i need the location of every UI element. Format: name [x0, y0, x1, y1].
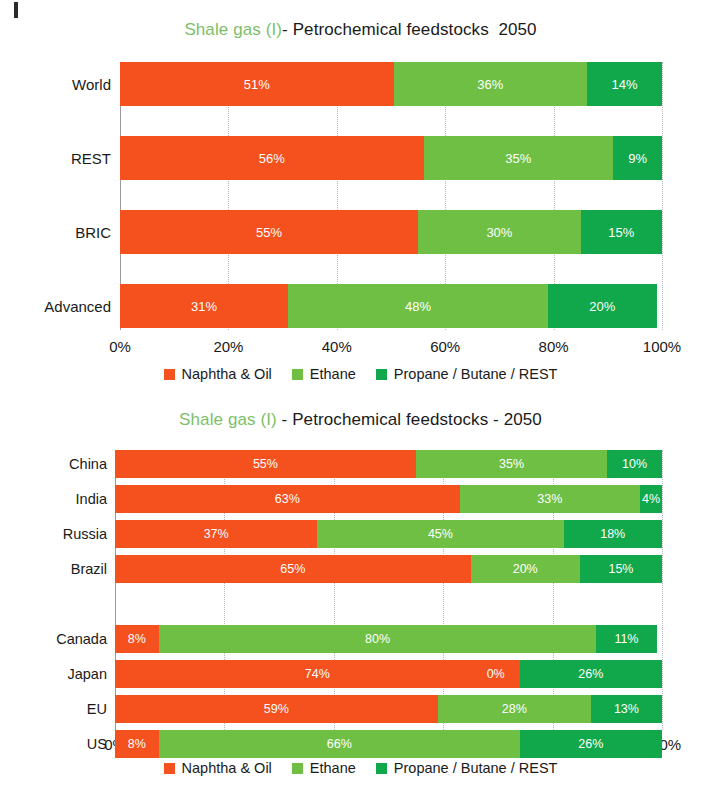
category-label: Japan: [67, 660, 115, 688]
bar-row: India63%33%4%: [115, 485, 662, 513]
bar-value-label: 18%: [600, 527, 625, 541]
bar-value-label: 13%: [614, 702, 639, 716]
bar-segment: 55%: [120, 210, 418, 254]
legend-item[interactable]: Propane / Butane / REST: [376, 760, 558, 776]
bar-segment: 37%: [115, 520, 317, 548]
chart-bottom-plot-area: China55%35%10%India63%33%4%Russia37%45%1…: [115, 450, 662, 730]
scan-artifact-mark: [14, 2, 18, 18]
bar-segment: 15%: [580, 555, 662, 583]
bar-row: US8%66%26%: [115, 730, 662, 758]
x-axis-tick-label: 80%: [539, 338, 569, 355]
bar-segment: 74%: [115, 660, 520, 688]
bar-value-label: 65%: [280, 562, 305, 576]
legend-item-label: Ethane: [310, 760, 356, 776]
bar-value-label: 33%: [537, 492, 562, 506]
gridline: [662, 62, 664, 330]
bar-row: World51%36%14%: [120, 62, 662, 106]
bar-value-label: 74%: [305, 667, 330, 681]
bar-row-spacer: [115, 590, 662, 618]
bar-value-label: 80%: [365, 632, 390, 646]
bar-row: EU59%28%13%: [115, 695, 662, 723]
legend-item-label: Naphtha & Oil: [182, 760, 272, 776]
bar-segment: 56%: [120, 136, 424, 180]
legend-item[interactable]: Propane / Butane / REST: [376, 366, 558, 382]
bar-value-label: 26%: [578, 667, 603, 681]
legend-item-label: Naphtha & Oil: [182, 366, 272, 382]
bar-segment: 18%: [564, 520, 662, 548]
bar-segment: 26%: [520, 730, 662, 758]
bar-value-label: 48%: [405, 299, 431, 314]
bar-segment: 9%: [613, 136, 662, 180]
chart-top-bar-rows: World51%36%14%REST56%35%9%BRIC55%30%15%A…: [120, 62, 662, 330]
bar-value-label: 20%: [589, 299, 615, 314]
category-label: BRIC: [75, 210, 120, 254]
legend-item[interactable]: Ethane: [292, 760, 356, 776]
chart-bottom-countries: Shale gas (I) - Petrochemical feedstocks…: [0, 410, 721, 776]
bar-row: REST56%35%9%: [120, 136, 662, 180]
bar-segment: 65%: [115, 555, 471, 583]
x-axis-tick-label: 60%: [430, 338, 460, 355]
bar-segment: 55%: [115, 450, 416, 478]
bar-value-label: 56%: [259, 151, 285, 166]
bar-segment: 36%: [394, 62, 587, 106]
bar-segment: 13%: [591, 695, 662, 723]
bar-segment: 4%: [640, 485, 662, 513]
bar-value-label: 37%: [204, 527, 229, 541]
chart-top-x-axis: 0%20%40%60%80%100%: [120, 336, 662, 360]
category-label: Brazil: [71, 555, 115, 583]
bar-value-label: 26%: [578, 737, 603, 751]
bar-value-label: 63%: [275, 492, 300, 506]
legend-item[interactable]: Ethane: [292, 366, 356, 382]
bar-value-label: 55%: [256, 225, 282, 240]
bar-row: Japan74%0%26%: [115, 660, 662, 688]
bar-value-label: 36%: [477, 77, 503, 92]
bar-segment: 20%: [471, 555, 580, 583]
bar-segment: 20%: [548, 284, 656, 328]
legend-item-label: Propane / Butane / REST: [394, 366, 558, 382]
bar-segment: 59%: [115, 695, 438, 723]
chart-bottom-title: Shale gas (I) - Petrochemical feedstocks…: [0, 410, 721, 430]
bar-value-label: 59%: [264, 702, 289, 716]
bar-segment: 15%: [581, 210, 662, 254]
square-swatch-icon: [164, 369, 175, 380]
bar-row: BRIC55%30%15%: [120, 210, 662, 254]
bar-value-label: 14%: [611, 77, 637, 92]
bar-value-label: 4%: [642, 492, 660, 506]
bar-value-label: 9%: [628, 151, 647, 166]
bar-value-label: 55%: [253, 457, 278, 471]
bar-segment: 10%: [607, 450, 662, 478]
x-axis-tick-label: 20%: [213, 338, 243, 355]
category-label: REST: [71, 136, 120, 180]
bar-value-label: 35%: [505, 151, 531, 166]
bar-segment: 48%: [288, 284, 548, 328]
square-swatch-icon: [292, 369, 303, 380]
bar-segment: 63%: [115, 485, 460, 513]
bar-value-label: 10%: [622, 457, 647, 471]
bar-row: Advanced31%48%20%: [120, 284, 662, 328]
chart-bottom-title-green: Shale gas (I): [179, 410, 277, 429]
square-swatch-icon: [376, 763, 387, 774]
bar-segment: 26%: [520, 660, 662, 688]
category-label: Canada: [56, 625, 115, 653]
chart-top-legend: Naphtha & OilEthanePropane / Butane / RE…: [0, 366, 721, 382]
bar-value-label: 15%: [608, 562, 633, 576]
bar-row: Russia37%45%18%: [115, 520, 662, 548]
legend-item[interactable]: Naphtha & Oil: [164, 366, 272, 382]
square-swatch-icon: [164, 763, 175, 774]
chart-top-title-green: Shale gas (I): [184, 20, 282, 39]
chart-top-title-dark: - Petrochemical feedstocks 2050: [282, 20, 537, 39]
bar-value-label: 28%: [502, 702, 527, 716]
bar-value-label: 35%: [499, 457, 524, 471]
bar-value-label: 45%: [428, 527, 453, 541]
bar-value-label: 11%: [614, 632, 638, 646]
bar-value-label: 30%: [486, 225, 512, 240]
gridline: [662, 450, 664, 730]
x-axis-tick-label: 40%: [322, 338, 352, 355]
bar-segment: 35%: [416, 450, 607, 478]
bar-segment: 31%: [120, 284, 288, 328]
legend-item[interactable]: Naphtha & Oil: [164, 760, 272, 776]
bar-segment: 33%: [460, 485, 641, 513]
bar-row: China55%35%10%: [115, 450, 662, 478]
category-label: Advanced: [44, 284, 120, 328]
bar-value-label: 8%: [128, 737, 146, 751]
